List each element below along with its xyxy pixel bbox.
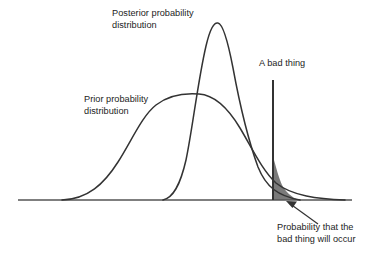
tail-probability-label: Probability that the bad thing will occu… bbox=[277, 222, 356, 245]
prior-distribution-label: Prior probability distribution bbox=[84, 94, 148, 117]
callout-arrow bbox=[286, 201, 318, 224]
posterior-distribution-curve bbox=[163, 23, 300, 200]
bayesian-risk-figure: Posterior probability distribution Prior… bbox=[0, 0, 384, 256]
threshold-label: A bad thing bbox=[259, 58, 305, 70]
figure-canvas bbox=[0, 0, 384, 256]
posterior-distribution-label: Posterior probability distribution bbox=[112, 8, 194, 31]
